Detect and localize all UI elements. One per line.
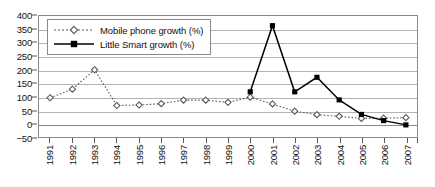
data-point-marker	[359, 112, 364, 117]
data-point-marker	[381, 118, 386, 123]
y-tick-label-400: 400	[17, 10, 32, 21]
data-point-marker	[292, 108, 298, 114]
data-point-marker	[403, 115, 409, 121]
x-tick-mark-1996	[161, 138, 162, 143]
x-tick-label-2000: 2000	[245, 145, 256, 165]
x-tick-mark-1998	[206, 138, 207, 143]
x-tick-mark-1995	[139, 138, 140, 143]
y-tick-mark-0	[32, 124, 37, 125]
legend-item-little-smart-growth: Little Smart growth (%)	[53, 37, 203, 51]
x-tick-label-2007: 2007	[401, 145, 412, 165]
y-tick-mark--50	[32, 138, 37, 139]
x-tick-label-1996: 1996	[155, 145, 166, 165]
legend-key-dotted-open-diamond-icon	[53, 24, 95, 36]
data-point-marker	[69, 86, 75, 92]
x-tick-mark-1999	[228, 138, 229, 143]
legend-key-solid-filled-square-icon	[53, 38, 95, 50]
legend-label-little-smart-growth: Little Smart growth (%)	[95, 39, 194, 50]
x-tick-mark-2003	[317, 138, 318, 143]
y-tick-label--50: −50	[16, 133, 32, 144]
data-point-marker	[403, 122, 408, 127]
data-point-marker	[248, 89, 253, 94]
x-tick-label-2004: 2004	[334, 145, 345, 165]
y-tick-mark-100	[32, 97, 37, 98]
x-tick-mark-2006	[384, 138, 385, 143]
x-tick-mark-2001	[273, 138, 274, 143]
data-point-marker	[47, 95, 53, 101]
series-line-1	[250, 26, 406, 125]
x-tick-label-1997: 1997	[178, 145, 189, 165]
data-point-marker	[336, 113, 342, 119]
x-tick-label-1992: 1992	[66, 145, 77, 165]
y-tick-mark-350	[32, 28, 37, 29]
x-tick-mark-1991	[49, 138, 50, 143]
x-tick-label-1999: 1999	[223, 145, 234, 165]
data-point-marker	[203, 97, 209, 103]
data-point-marker	[269, 101, 275, 107]
x-tick-label-1995: 1995	[133, 145, 144, 165]
x-tick-mark-2004	[340, 138, 341, 143]
x-tick-label-1993: 1993	[88, 145, 99, 165]
y-tick-mark-400	[32, 15, 37, 16]
x-tick-mark-2002	[295, 138, 296, 143]
y-tick-label-150: 150	[17, 78, 32, 89]
data-point-marker	[158, 101, 164, 107]
chart-legend: Mobile phone growth (%) Little Smart gro…	[47, 19, 211, 55]
x-tick-label-1991: 1991	[44, 145, 55, 165]
y-tick-label-100: 100	[17, 92, 32, 103]
y-tick-mark-150	[32, 83, 37, 84]
y-tick-label-350: 350	[17, 23, 32, 34]
data-point-marker	[292, 89, 297, 94]
y-tick-label-250: 250	[17, 51, 32, 62]
y-tick-label-50: 50	[22, 105, 32, 116]
data-point-marker	[314, 75, 319, 80]
data-point-marker	[247, 94, 253, 100]
data-point-marker	[136, 102, 142, 108]
series-line-0	[50, 70, 406, 119]
x-tick-label-2005: 2005	[357, 145, 368, 165]
x-tick-label-1994: 1994	[111, 145, 122, 165]
x-tick-label-2001: 2001	[267, 145, 278, 165]
x-tick-mark-end	[417, 138, 418, 143]
y-tick-mark-50	[32, 110, 37, 111]
x-tick-mark-2007	[407, 138, 408, 143]
x-tick-mark-1993	[94, 138, 95, 143]
x-axis: 1991199219931994199519961997199819992000…	[38, 138, 418, 187]
x-tick-mark-1997	[183, 138, 184, 143]
legend-item-mobile-phone-growth: Mobile phone growth (%)	[53, 23, 203, 37]
data-point-marker	[270, 23, 275, 28]
x-tick-label-2006: 2006	[379, 145, 390, 165]
x-tick-mark-2005	[362, 138, 363, 143]
data-point-marker	[225, 99, 231, 105]
data-point-marker	[180, 97, 186, 103]
y-tick-mark-300	[32, 42, 37, 43]
x-tick-mark-1992	[72, 138, 73, 143]
data-point-marker	[337, 97, 342, 102]
line-chart: 400350300250200150100500−50 199119921993…	[0, 0, 435, 187]
data-point-marker	[314, 112, 320, 118]
y-tick-mark-200	[32, 69, 37, 70]
legend-label-mobile-phone-growth: Mobile phone growth (%)	[95, 25, 203, 36]
x-tick-label-2002: 2002	[290, 145, 301, 165]
x-tick-mark-1994	[116, 138, 117, 143]
data-point-marker	[92, 67, 98, 73]
x-tick-mark-2000	[250, 138, 251, 143]
y-tick-label-200: 200	[17, 64, 32, 75]
x-tick-label-2003: 2003	[312, 145, 323, 165]
y-axis: 400350300250200150100500−50	[0, 15, 36, 138]
x-tick-label-1998: 1998	[200, 145, 211, 165]
data-point-marker	[114, 102, 120, 108]
y-tick-mark-250	[32, 56, 37, 57]
y-tick-label-300: 300	[17, 37, 32, 48]
